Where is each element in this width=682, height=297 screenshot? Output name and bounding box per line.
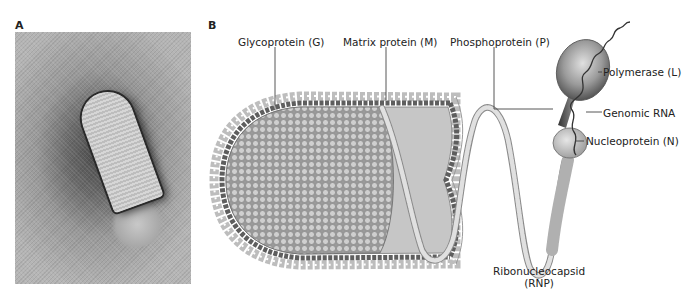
ribonucleocapsid-label: Ribonucleocapsid (RNP) bbox=[484, 265, 594, 289]
virus-diagram bbox=[0, 0, 682, 297]
envelope bbox=[214, 96, 463, 265]
rnp-label-line2: (RNP) bbox=[484, 277, 594, 289]
genomic-rna-label: Genomic RNA bbox=[603, 107, 675, 119]
polymerase-label: Polymerase (L) bbox=[603, 66, 681, 78]
phosphoprotein-label: Phosphoprotein (P) bbox=[450, 36, 550, 48]
rnp-label-line1: Ribonucleocapsid bbox=[484, 265, 594, 277]
nucleoprotein-shape bbox=[553, 128, 587, 158]
matrix-protein-label: Matrix protein (M) bbox=[343, 36, 437, 48]
glycoprotein-label: Glycoprotein (G) bbox=[238, 36, 324, 48]
nucleoprotein-label: Nucleoprotein (N) bbox=[586, 135, 679, 147]
